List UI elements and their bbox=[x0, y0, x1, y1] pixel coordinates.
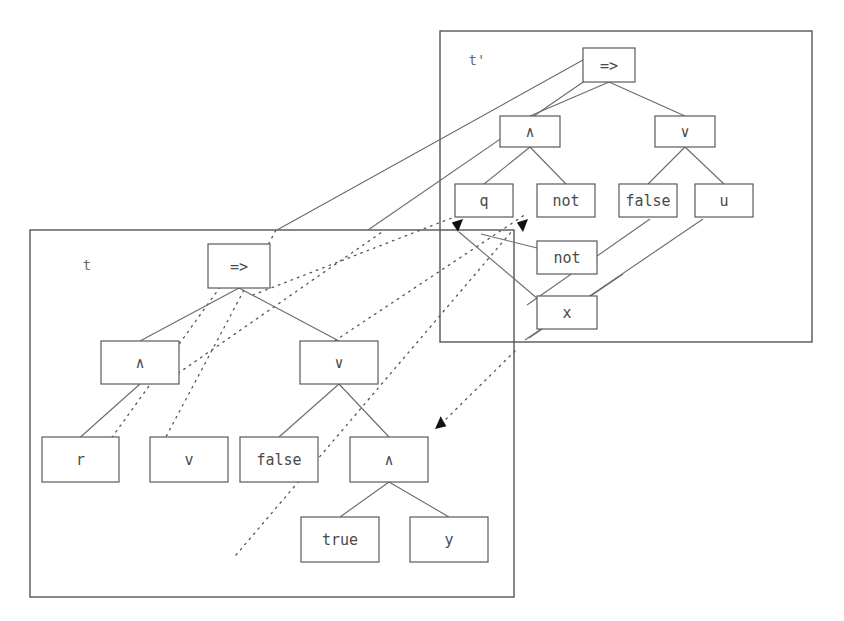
tree-node-tp-q: q bbox=[455, 184, 513, 217]
node-label: ∧ bbox=[135, 354, 144, 372]
arrow-triangle bbox=[515, 215, 532, 232]
node-label: false bbox=[625, 192, 670, 210]
tree-node-t-true: true bbox=[301, 517, 379, 562]
tree-node-t-v: v bbox=[150, 437, 228, 482]
frame-label-layer: t't bbox=[83, 52, 486, 273]
tree-node-tp-u: u bbox=[695, 184, 753, 217]
node-label: true bbox=[322, 531, 358, 549]
mapping-dotted-line bbox=[438, 351, 515, 427]
node-label: false bbox=[256, 451, 301, 469]
arrowhead-layer bbox=[431, 215, 531, 433]
tree-edge-tp-and-to-tp-q bbox=[484, 147, 530, 184]
frame-t-prime-label: t' bbox=[469, 52, 486, 68]
tree-node-t-r: r bbox=[42, 437, 119, 482]
tree-edge-t-or-to-t-false bbox=[279, 384, 339, 437]
frame-t-label: t bbox=[83, 257, 91, 273]
tree-node-t-false: false bbox=[240, 437, 318, 482]
tree-node-layer: =>∧∨qnotfalseunotx=>∧∨rvfalse∧truey bbox=[42, 48, 753, 562]
tree-node-tp-not1: not bbox=[537, 184, 595, 217]
tree-edge-tp-imp-to-tp-and bbox=[530, 82, 609, 116]
tree-node-t-or: ∨ bbox=[300, 341, 378, 384]
arrow-to-not bbox=[515, 215, 532, 232]
node-label: not bbox=[552, 192, 579, 210]
node-label: => bbox=[600, 57, 618, 75]
tree-edge-tp-or-to-tp-u bbox=[685, 147, 724, 184]
tree-node-t-y: y bbox=[410, 517, 488, 562]
tree-edge-tp-imp-to-tp-or bbox=[609, 82, 685, 116]
tree-node-tp-imp: => bbox=[583, 48, 635, 82]
tree-edge-t-and2-to-t-y bbox=[389, 482, 449, 517]
tree-node-tp-not2: not bbox=[537, 241, 597, 274]
tree-node-t-and: ∧ bbox=[101, 341, 179, 384]
tree-edge-t-and2-to-t-true bbox=[340, 482, 389, 517]
tree-edge-t-or-to-t-and2 bbox=[339, 384, 389, 437]
node-label: r bbox=[76, 451, 85, 469]
tree-node-tp-and: ∧ bbox=[500, 116, 560, 147]
node-label: y bbox=[444, 531, 453, 549]
node-label: ∨ bbox=[334, 354, 343, 372]
node-label: q bbox=[479, 192, 488, 210]
node-label: not bbox=[553, 249, 580, 267]
tree-node-tp-or: ∨ bbox=[655, 116, 715, 147]
tree-edge-tp-and-to-tp-not1 bbox=[530, 147, 566, 184]
tree-node-t-and2: ∧ bbox=[350, 437, 428, 482]
tree-edge-tp-or-to-tp-false bbox=[648, 147, 685, 184]
tree-node-t-imp: => bbox=[208, 244, 270, 288]
tree-edge-t-imp-to-t-or bbox=[239, 288, 339, 341]
node-label: ∧ bbox=[525, 123, 534, 141]
node-label: x bbox=[562, 304, 571, 322]
diagram-root: =>∧∨qnotfalseunotx=>∧∨rvfalse∧truey t't bbox=[0, 0, 844, 621]
tree-edge-t-and-to-t-r bbox=[81, 384, 141, 437]
node-label: ∨ bbox=[680, 123, 689, 141]
mapping-solid-line bbox=[481, 234, 545, 250]
node-label: => bbox=[230, 258, 248, 276]
tree-node-tp-false: false bbox=[619, 184, 677, 217]
node-label: u bbox=[719, 192, 728, 210]
tree-node-tp-x: x bbox=[537, 296, 597, 329]
tree-edge-t-imp-to-t-and bbox=[140, 288, 239, 341]
mapping-dotted-line bbox=[318, 214, 526, 352]
tree-mapping-diagram: =>∧∨qnotfalseunotx=>∧∨rvfalse∧truey t't bbox=[0, 0, 844, 621]
node-label: ∧ bbox=[384, 451, 393, 469]
mapping-dotted-line bbox=[236, 231, 512, 555]
node-label: v bbox=[184, 451, 193, 469]
